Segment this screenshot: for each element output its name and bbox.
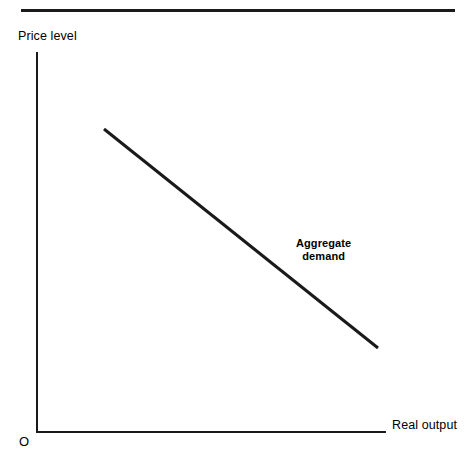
aggregate-demand-label: Aggregate demand: [296, 237, 351, 263]
x-axis-label: Real output: [392, 418, 457, 433]
y-axis-label: Price level: [18, 29, 77, 44]
aggregate-demand-label-line1: Aggregate: [296, 237, 351, 249]
curve-layer: [0, 0, 475, 468]
origin-label: O: [19, 434, 29, 449]
aggregate-demand-figure: Price level Real output O Aggregate dema…: [0, 0, 475, 468]
aggregate-demand-label-line2: demand: [296, 250, 351, 263]
